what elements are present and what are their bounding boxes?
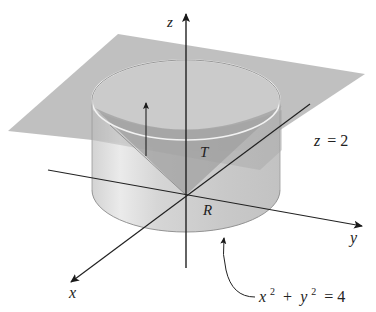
z-axis-label: z (166, 14, 173, 30)
diagram-figure: z y x T R z = 2 x 2 + y 2 = 4 (0, 0, 376, 312)
x-axis-label: x (68, 284, 76, 301)
y-axis-label: y (348, 229, 358, 247)
circle-equation: x 2 + y 2 = 4 (258, 281, 345, 306)
plane-equation: z = 2 (313, 132, 348, 149)
region-label: R (202, 202, 212, 218)
pointer-arrow (223, 238, 255, 297)
